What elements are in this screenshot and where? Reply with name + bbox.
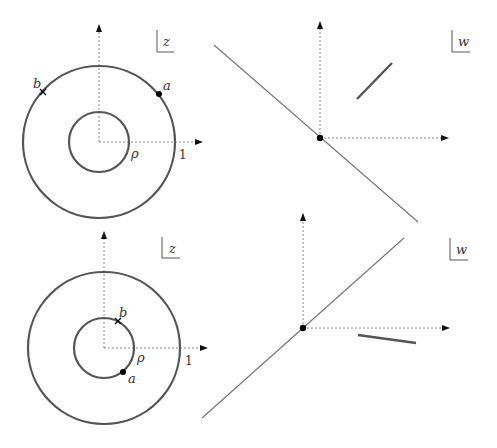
- label-one: 1: [179, 148, 187, 162]
- plane-label: w: [456, 242, 467, 257]
- point-a: [156, 91, 162, 97]
- label-b: b: [33, 76, 41, 91]
- bottom-left-z-plane: a b ρ 1 z: [28, 232, 207, 424]
- bottom-right-w-plane: w: [202, 214, 468, 418]
- label-a: a: [128, 371, 136, 386]
- top-right-w-plane: w: [214, 22, 470, 222]
- plane-label: z: [168, 241, 176, 256]
- label-rho: ρ: [130, 146, 139, 161]
- image-segment: [357, 63, 392, 99]
- image-segment: [358, 335, 416, 343]
- label-b: b: [119, 305, 127, 320]
- label-rho: ρ: [136, 350, 145, 365]
- point-a: [120, 369, 126, 375]
- plane-label: w: [458, 34, 469, 49]
- image-line: [214, 45, 418, 222]
- top-left-z-plane: a b ρ 1 z: [23, 25, 202, 218]
- diagram-canvas: a b ρ 1 z w a b ρ 1 z: [0, 0, 497, 448]
- plane-label: z: [162, 34, 170, 49]
- label-one: 1: [185, 354, 193, 368]
- origin-point: [300, 325, 306, 331]
- origin-point: [317, 135, 323, 141]
- label-a: a: [163, 78, 171, 93]
